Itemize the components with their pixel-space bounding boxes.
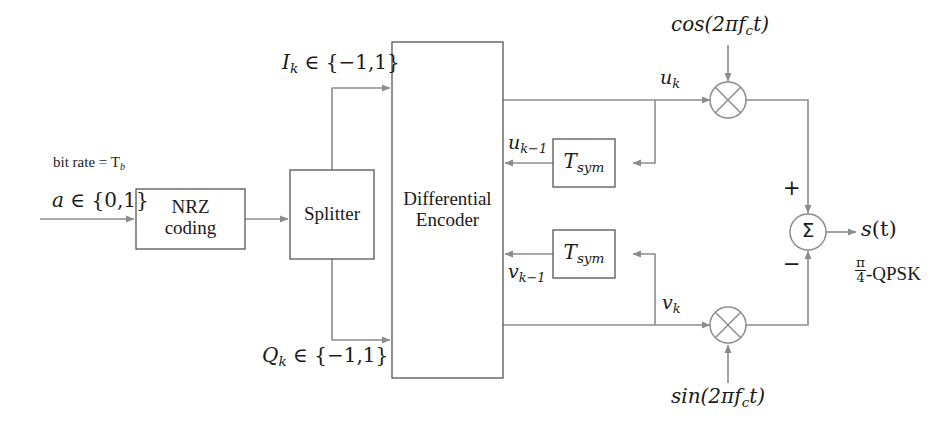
block-label-splitter-line1: Splitter xyxy=(290,203,374,224)
label-q-branch-var: Q xyxy=(262,343,278,367)
label-vk-minus-1: vk−1 xyxy=(508,262,546,285)
delay-lower-symbol: T xyxy=(564,240,577,264)
wire-splitter-i-branch xyxy=(332,88,390,170)
block-label-delay-upper: Tsym xyxy=(553,150,615,175)
label-modulation-scheme: π 4 -QPSK xyxy=(855,256,921,284)
label-summer-plus: + xyxy=(783,178,801,199)
label-i-branch-var: I xyxy=(282,50,290,74)
label-bit-rate: bit rate = Tb xyxy=(53,155,125,172)
label-input-var: a xyxy=(52,188,64,212)
minus-sign: − xyxy=(783,252,801,276)
label-carrier-sin: sin(2πfct) xyxy=(671,386,765,409)
sigma-icon: Σ xyxy=(802,218,815,242)
summer-sigma-label: Σ xyxy=(794,220,822,240)
block-label-nrz-line1: NRZ xyxy=(136,196,245,217)
block-label-differential-encoder: Differential Encoder xyxy=(392,188,503,231)
block-label-nrz: NRZ coding xyxy=(136,196,245,239)
delay-upper-symbol: T xyxy=(564,149,577,173)
block-label-delay-lower: Tsym xyxy=(553,241,615,266)
label-q-branch-subscript: k xyxy=(278,353,286,369)
label-ukm1-var: u xyxy=(508,131,520,153)
label-output-signal: s(t) xyxy=(861,219,897,240)
label-q-branch: Qk ∈ {−1,1} xyxy=(262,345,388,368)
label-output-var: s xyxy=(861,217,872,241)
label-i-branch-rel: ∈ {−1,1} xyxy=(298,50,400,74)
label-vkm1-subscript: k−1 xyxy=(519,270,546,285)
label-sin-prefix: sin(2πf xyxy=(671,384,742,408)
label-i-branch: Ik ∈ {−1,1} xyxy=(282,52,400,75)
wire-vk-tap-to-delay-lower xyxy=(633,254,655,325)
block-label-encoder-line2: Encoder xyxy=(392,209,503,230)
label-cos-suffix: t) xyxy=(753,12,769,36)
block-diagram-canvas: NRZ coding Splitter Differential Encoder… xyxy=(0,0,938,429)
block-label-encoder-line1: Differential xyxy=(392,188,503,209)
label-uk-subscript: k xyxy=(672,76,680,91)
label-output-arg: (t) xyxy=(872,217,897,241)
label-summer-minus: − xyxy=(783,254,801,275)
label-cos-prefix: cos(2πf xyxy=(671,12,746,36)
pi-over-four-fraction: π 4 xyxy=(855,256,866,284)
label-uk-var: u xyxy=(660,66,672,88)
delay-upper-subscript: sym xyxy=(577,159,605,175)
label-input-rel: ∈ {0,1} xyxy=(64,188,149,212)
label-bit-rate-text: bit rate = T xyxy=(53,154,120,170)
label-i-branch-subscript: k xyxy=(290,60,298,76)
modulation-name: -QPSK xyxy=(866,263,921,284)
label-bit-rate-subscript: b xyxy=(120,161,125,172)
label-q-branch-rel: ∈ {−1,1} xyxy=(287,343,389,367)
wire-splitter-q-branch xyxy=(332,258,390,340)
wire-uk-tap-to-delay-upper xyxy=(633,100,655,163)
label-sin-suffix: t) xyxy=(749,384,765,408)
block-label-nrz-line2: coding xyxy=(136,217,245,238)
label-uk-minus-1: uk−1 xyxy=(508,133,547,156)
label-vkm1-var: v xyxy=(508,260,519,282)
label-vk-var: v xyxy=(662,291,673,313)
label-vk: vk xyxy=(662,293,681,316)
fraction-denominator: 4 xyxy=(855,271,866,285)
label-vk-subscript: k xyxy=(673,301,681,316)
label-input-signal: a ∈ {0,1} xyxy=(52,190,149,210)
label-uk: uk xyxy=(660,68,680,91)
delay-lower-subscript: sym xyxy=(577,250,605,266)
label-carrier-cos: cos(2πfct) xyxy=(671,14,769,37)
plus-sign: + xyxy=(783,176,801,200)
block-label-splitter: Splitter xyxy=(290,203,374,224)
label-ukm1-subscript: k−1 xyxy=(520,141,547,156)
